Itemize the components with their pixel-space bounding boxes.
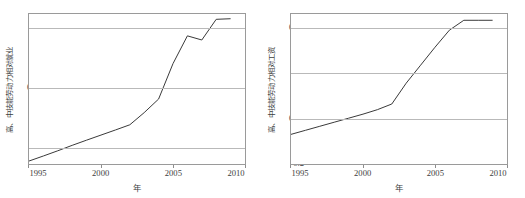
x-tick-mark (245, 165, 246, 168)
x-tick-mark (507, 165, 508, 168)
x-tick-label: 2005 (427, 168, 444, 178)
series-line-wage (291, 14, 507, 164)
x-axis-label-wage: 年 (290, 181, 508, 193)
x-tick-label: 1995 (291, 168, 308, 178)
gridline (29, 88, 245, 89)
data-series-path (29, 19, 231, 161)
x-axis-label-employment: 年 (28, 181, 246, 193)
x-axis-employment: 1995200020052010 (28, 165, 246, 179)
x-axis-wage: 1995200020052010 (290, 165, 508, 179)
gridline (291, 119, 507, 120)
x-tick-label: 2010 (489, 168, 506, 178)
plot-area-employment (28, 13, 246, 165)
y-axis-label-text: 高、中技能劳动力相对就业 (3, 46, 14, 132)
gridline (291, 28, 507, 29)
data-series-path (291, 20, 493, 134)
gridline (29, 28, 245, 29)
x-tick-label: 2000 (92, 168, 109, 178)
x-tick-label: 2000 (354, 168, 371, 178)
y-axis-label-employment: 高、中技能劳动力相对就业 (0, 13, 16, 165)
plot-area-wage (290, 13, 508, 165)
chart-panel-employment: 高、中技能劳动力相对就业 0.10.150.2 1995200020052010… (0, 0, 262, 198)
y-axis-label-text: 高、中技能劳动力相对工资 (265, 46, 276, 132)
y-axis-label-wage: 高、中技能劳动力相对工资 (262, 13, 278, 165)
figure-two-line-charts: 高、中技能劳动力相对就业 0.10.150.2 1995200020052010… (0, 0, 525, 198)
gridline (291, 73, 507, 74)
gridline (29, 148, 245, 149)
x-tick-label: 1995 (29, 168, 46, 178)
chart-panel-wage: 高、中技能劳动力相对工资 0.20.250.30.35 199520002005… (262, 0, 525, 198)
x-tick-label: 2010 (227, 168, 244, 178)
x-tick-label: 2005 (165, 168, 182, 178)
